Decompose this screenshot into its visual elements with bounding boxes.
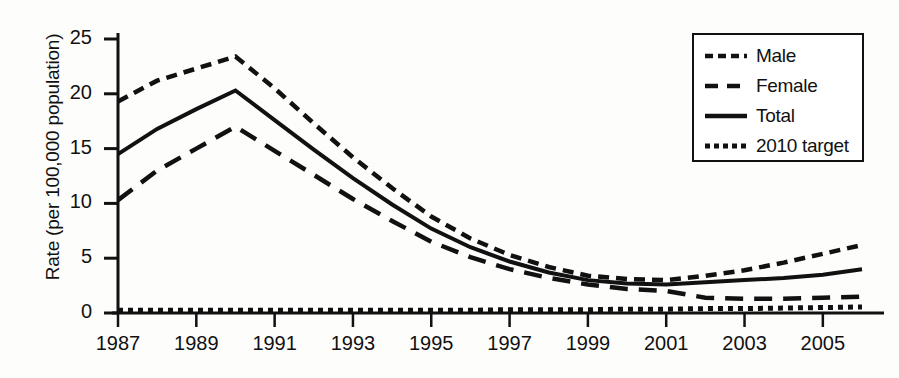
x-tick-label-2003: 2003 (710, 332, 780, 355)
legend-label: 2010 target (756, 135, 849, 157)
legend-item-female[interactable]: Female (704, 71, 818, 101)
series-line-2010-target (118, 307, 862, 310)
y-tick-label-25: 25 (46, 26, 92, 49)
legend-item-male[interactable]: Male (704, 41, 796, 71)
legend-swatch-solid-icon (704, 109, 748, 123)
y-tick-label-20: 20 (46, 81, 92, 104)
chart-figure: Rate (per 100,000 population) 2520151050… (0, 0, 899, 378)
x-tick-label-2001: 2001 (631, 332, 701, 355)
legend-item-2010-target[interactable]: 2010 target (704, 131, 849, 161)
legend-label: Male (756, 45, 796, 67)
x-axis-ticks (118, 313, 823, 327)
legend-item-total[interactable]: Total (704, 101, 795, 131)
y-tick-label-0: 0 (46, 300, 92, 323)
x-tick-label-1995: 1995 (396, 332, 466, 355)
legend-label: Female (756, 75, 818, 97)
y-tick-label-10: 10 (46, 190, 92, 213)
y-tick-label-15: 15 (46, 136, 92, 159)
x-tick-label-1997: 1997 (475, 332, 545, 355)
legend-swatch-long-dashed-icon (704, 79, 748, 93)
x-tick-label-1989: 1989 (161, 332, 231, 355)
x-tick-label-1993: 1993 (318, 332, 388, 355)
x-tick-label-1999: 1999 (553, 332, 623, 355)
legend-swatch-dotted-icon (704, 139, 748, 153)
y-tick-label-5: 5 (46, 245, 92, 268)
x-tick-label-1991: 1991 (240, 332, 310, 355)
chart-legend: MaleFemaleTotal2010 target (692, 33, 864, 162)
legend-swatch-dashed-icon (704, 49, 748, 63)
x-tick-label-1987: 1987 (83, 332, 153, 355)
y-axis-ticks (104, 39, 118, 313)
x-tick-label-2005: 2005 (788, 332, 858, 355)
legend-label: Total (756, 105, 795, 127)
